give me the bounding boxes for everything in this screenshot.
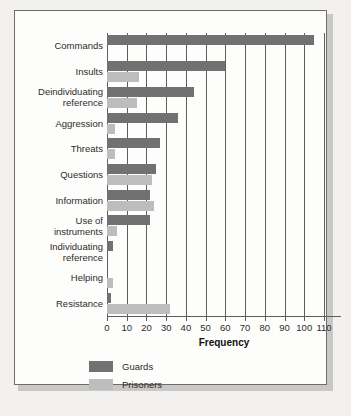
- category-label-line: Commands: [17, 40, 103, 51]
- legend-label-guards: Guards: [122, 361, 153, 372]
- chart-legend: GuardsPrisoners: [89, 359, 162, 395]
- bar-prisoners-resistance: [107, 304, 170, 314]
- category-label-line: reference: [17, 97, 103, 108]
- tick-mark-90: [285, 317, 286, 321]
- tick-label-20: 20: [141, 322, 152, 333]
- bar-group: [107, 113, 340, 134]
- figure-container: CommandsInsultsDeindividuatingreferenceA…: [0, 0, 351, 416]
- tick-mark-70: [245, 317, 246, 321]
- x-axis-title: Frequency: [107, 337, 341, 348]
- tick-mark-0: [107, 317, 108, 321]
- tick-label-100: 100: [296, 322, 312, 333]
- tick-mark-40: [186, 317, 187, 321]
- tick-label-40: 40: [181, 322, 192, 333]
- tick-label-70: 70: [240, 322, 251, 333]
- bar-group: [107, 87, 340, 108]
- tick-label-0: 0: [104, 322, 109, 333]
- bar-group: [107, 293, 340, 314]
- category-label-line: Questions: [17, 169, 103, 180]
- tick-label-110: 110: [316, 322, 331, 333]
- tick-mark-100: [304, 317, 305, 321]
- bar-prisoners-use-of-instruments: [107, 226, 117, 236]
- category-label-line: Deindividuating: [17, 86, 103, 97]
- category-label-line: reference: [17, 252, 103, 263]
- bar-guards-use-of-instruments: [107, 215, 150, 225]
- bar-guards-threats: [107, 138, 160, 148]
- category-label-use-of-instruments: Use ofinstruments: [17, 215, 103, 237]
- legend-swatch-prisoners: [89, 379, 113, 390]
- bar-prisoners-questions: [107, 175, 152, 185]
- bar-prisoners-deindividuating-reference: [107, 98, 137, 108]
- bar-group: [107, 138, 340, 159]
- bar-guards-commands: [107, 35, 314, 45]
- tick-label-80: 80: [260, 322, 271, 333]
- bar-guards-individuating-reference: [107, 241, 113, 251]
- plot-area: [107, 33, 340, 316]
- tick-mark-60: [225, 317, 226, 321]
- category-label-line: instruments: [17, 226, 103, 237]
- category-label-resistance: Resistance: [17, 298, 103, 309]
- x-axis-ticks: 0102030405060708090100110: [107, 317, 341, 337]
- category-label-information: Information: [17, 195, 103, 206]
- bar-group: [107, 61, 340, 82]
- bar-guards-aggression: [107, 113, 178, 123]
- category-label-threats: Threats: [17, 143, 103, 154]
- legend-swatch-guards: [89, 361, 113, 372]
- category-label-aggression: Aggression: [17, 118, 103, 129]
- bar-prisoners-insults: [107, 72, 139, 82]
- category-label-line: Insults: [17, 66, 103, 77]
- category-label-deindividuating-reference: Deindividuatingreference: [17, 86, 103, 108]
- tick-mark-20: [146, 317, 147, 321]
- tick-mark-50: [206, 317, 207, 321]
- bar-guards-information: [107, 190, 150, 200]
- category-label-line: Helping: [17, 272, 103, 283]
- tick-mark-80: [265, 317, 266, 321]
- category-label-line: Use of: [17, 215, 103, 226]
- bar-group: [107, 267, 340, 288]
- bar-group: [107, 35, 340, 56]
- tick-label-30: 30: [161, 322, 172, 333]
- bar-group: [107, 190, 340, 211]
- tick-mark-30: [166, 317, 167, 321]
- bar-prisoners-helping: [107, 278, 113, 288]
- category-label-questions: Questions: [17, 169, 103, 180]
- legend-item-prisoners: Prisoners: [89, 377, 162, 392]
- tick-label-50: 50: [200, 322, 211, 333]
- category-label-line: Information: [17, 195, 103, 206]
- category-label-commands: Commands: [17, 40, 103, 51]
- bar-prisoners-information: [107, 201, 154, 211]
- category-label-line: Threats: [17, 143, 103, 154]
- bar-group: [107, 241, 340, 262]
- legend-item-guards: Guards: [89, 359, 162, 374]
- tick-label-10: 10: [121, 322, 132, 333]
- tick-label-90: 90: [279, 322, 290, 333]
- chart-card: CommandsInsultsDeindividuatingreferenceA…: [14, 10, 327, 385]
- bar-prisoners-aggression: [107, 124, 115, 134]
- bar-guards-resistance: [107, 293, 111, 303]
- legend-label-prisoners: Prisoners: [122, 379, 162, 390]
- category-label-helping: Helping: [17, 272, 103, 283]
- bar-guards-deindividuating-reference: [107, 87, 194, 97]
- category-label-line: Resistance: [17, 298, 103, 309]
- bar-group: [107, 215, 340, 236]
- category-axis-labels: CommandsInsultsDeindividuatingreferenceA…: [15, 33, 103, 316]
- tick-label-60: 60: [220, 322, 231, 333]
- tick-mark-110: [324, 317, 325, 321]
- category-label-insults: Insults: [17, 66, 103, 77]
- category-label-individuating-reference: Individuatingreference: [17, 241, 103, 263]
- tick-mark-10: [127, 317, 128, 321]
- category-label-line: Individuating: [17, 241, 103, 252]
- category-label-line: Aggression: [17, 118, 103, 129]
- bar-prisoners-threats: [107, 149, 115, 159]
- bar-guards-questions: [107, 164, 156, 174]
- bar-group: [107, 164, 340, 185]
- bar-guards-insults: [107, 61, 225, 71]
